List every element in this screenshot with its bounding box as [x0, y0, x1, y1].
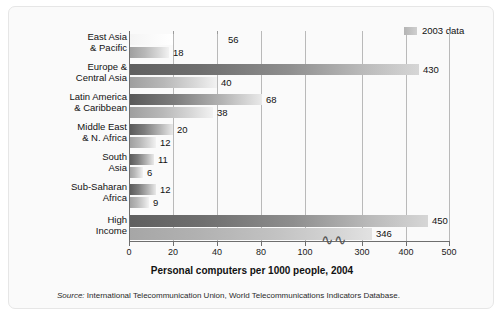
source-body: International Telecommunication Union, W…	[85, 291, 400, 300]
tick-label-40: 40	[212, 247, 222, 257]
value-label-2004-sub-saharan: 12	[160, 185, 171, 195]
bar-2004-south-asia	[129, 154, 154, 165]
bar-2003-latin-america	[129, 107, 213, 118]
value-label-2003-latin-america: 38	[217, 108, 228, 118]
category-label-high-income: High Income	[15, 215, 127, 236]
value-label-2004-europe: 430	[423, 65, 439, 75]
bar-group-south-asia	[129, 154, 450, 165]
tick-label-80: 80	[256, 247, 266, 257]
bar-2003-sub-saharan	[129, 197, 149, 208]
category-label-sub-saharan: Sub-Saharan Africa	[15, 182, 127, 203]
gridline-20	[173, 31, 174, 241]
x-axis-title: Personal computers per 1000 people, 2004	[9, 265, 495, 276]
category-label-europe: Europe & Central Asia	[15, 62, 127, 83]
gridline-300	[362, 31, 363, 241]
bar-group-europe-2003	[129, 77, 450, 88]
bar-group-europe	[129, 64, 450, 75]
category-axis-labels: East Asia & Pacific Europe & Central Asi…	[9, 31, 127, 241]
bar-2004-sub-saharan	[129, 184, 156, 195]
gridline-40	[217, 31, 218, 241]
bar-2003-europe	[129, 77, 217, 88]
bar-group-east-asia	[129, 34, 450, 45]
tick-100	[305, 242, 306, 246]
value-label-2003-sub-saharan: 9	[153, 198, 158, 208]
gridline-400	[406, 31, 407, 241]
gridline-80	[261, 31, 262, 241]
value-label-2003-europe: 40	[221, 78, 232, 88]
value-label-2004-high-income: 450	[432, 216, 448, 226]
tick-400	[406, 242, 407, 246]
value-label-2003-high-income: 346	[376, 229, 392, 239]
bar-2004-latin-america	[129, 94, 262, 105]
bar-group-middle-east-2003	[129, 137, 450, 148]
value-label-2004-middle-east: 20	[177, 125, 188, 135]
tick-20	[173, 242, 174, 246]
tick-500	[449, 242, 450, 246]
source-note: Source: International Telecommunication …	[57, 291, 400, 300]
bar-group-latin-america	[129, 94, 450, 105]
bar-group-high-income-2003	[129, 228, 450, 240]
bar-2004-europe	[129, 64, 419, 75]
axis-break-icon: ∿∿	[321, 233, 347, 248]
bar-group-sub-saharan	[129, 184, 450, 195]
bar-group-south-asia-2003	[129, 167, 450, 178]
bar-group-sub-saharan-2003	[129, 197, 450, 208]
bar-2004-middle-east	[129, 124, 173, 135]
y-axis-line	[129, 31, 130, 242]
value-label-2003-east-asia: 18	[173, 48, 184, 58]
bar-2004-high-income	[129, 215, 428, 227]
tick-label-300: 300	[354, 247, 369, 257]
bar-2003-middle-east	[129, 137, 156, 148]
category-label-latin-america: Latin America & Caribbean	[15, 92, 127, 113]
tick-80	[261, 242, 262, 246]
value-label-2004-latin-america: 68	[266, 95, 277, 105]
tick-label-400: 400	[398, 247, 413, 257]
value-label-2004-east-asia: 56	[228, 35, 239, 45]
x-axis-line	[129, 241, 450, 242]
tick-label-500: 500	[441, 247, 456, 257]
bar-group-latin-america-2003	[129, 107, 450, 118]
tick-40	[217, 242, 218, 246]
value-label-2004-south-asia: 11	[158, 155, 168, 165]
category-label-east-asia: East Asia & Pacific	[15, 32, 127, 53]
gridline-500	[449, 31, 450, 241]
bar-2004-east-asia	[129, 34, 173, 45]
chart-figure: 2003 data East Asia & Pacific Europe & C…	[8, 6, 494, 309]
value-label-2003-south-asia: 6	[147, 168, 152, 178]
gridline-100	[305, 31, 306, 241]
tick-label-0: 0	[126, 247, 131, 257]
source-label: Source:	[57, 291, 85, 300]
tick-label-100: 100	[297, 247, 312, 257]
bar-group-high-income	[129, 215, 450, 227]
tick-0	[129, 242, 130, 246]
category-label-south-asia: South Asia	[15, 152, 127, 173]
tick-label-20: 20	[168, 247, 178, 257]
value-label-2003-middle-east: 12	[160, 138, 171, 148]
tick-300	[362, 242, 363, 246]
bar-2003-south-asia	[129, 167, 143, 178]
category-label-middle-east: Middle East & N. Africa	[15, 122, 127, 143]
bar-2003-east-asia	[129, 47, 169, 58]
